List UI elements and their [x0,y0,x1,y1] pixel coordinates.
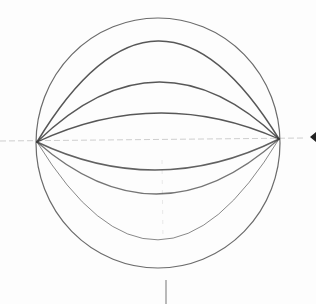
lower-arc [37,139,279,170]
guide-lines [0,138,305,304]
arrow-left-icon [310,132,316,142]
sphere-arcs [36,18,280,268]
upper-arc [37,113,279,142]
sphere-sketch [0,0,316,304]
sketch-canvas [0,0,316,304]
lower-arc [37,139,279,194]
arrow-marker-icon [310,132,316,142]
center-guide-line [162,160,163,240]
sphere-outline [36,18,280,268]
